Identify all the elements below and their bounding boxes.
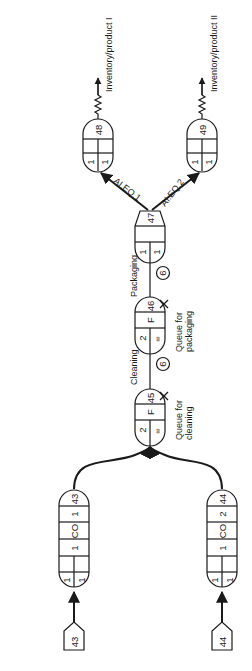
node-45-queue-limit: ∞ — [154, 429, 161, 434]
activity-cleaning-duration: 6 — [157, 361, 168, 366]
activity-cleaning-label: Cleaning — [129, 349, 139, 385]
node-48-number: 48 — [93, 125, 104, 136]
node-45-type: F — [145, 409, 156, 415]
node-43-cell-3: 1 — [69, 545, 80, 550]
node-44-bottom-left: 1 — [209, 577, 220, 582]
node-46: 46 F 2 ∞ — [135, 297, 168, 354]
node-48-bottom-right: 1 — [99, 159, 110, 164]
queue-45-label-line1: Queue for — [174, 400, 184, 440]
source-44-label: 44 — [217, 637, 228, 648]
node-43-cell-1: 1 — [69, 511, 80, 516]
node-43-number: 43 — [69, 494, 80, 505]
node-45-number: 45 — [145, 393, 156, 404]
node-44-cell-2: CO — [217, 524, 228, 538]
node-49-bottom-right: 1 — [203, 159, 214, 164]
queue-46-label-line2: packaging — [184, 311, 194, 352]
node-45: 45 F 2 ∞ — [135, 389, 168, 446]
node-46-type: F — [145, 317, 156, 323]
queue-45-label-line2: cleaning — [184, 406, 194, 440]
node-43-bottom-left: 1 — [61, 577, 72, 582]
node-47-bottom-right: 1 — [151, 249, 162, 254]
node-44-cell-3: 1 — [217, 545, 228, 550]
node-49-number: 49 — [197, 125, 208, 136]
branch-label-1: AI.EQ.1 — [112, 176, 143, 203]
source-43-label: 43 — [69, 637, 80, 648]
node-44: 44 2 CO 1 1 1 — [207, 490, 237, 587]
node-48-bottom-left: 1 — [85, 159, 96, 164]
node-46-capacity: 2 — [137, 335, 148, 340]
node-43-cell-2: CO — [69, 524, 80, 538]
node-43-bottom-right: 1 — [76, 577, 87, 582]
node-47-number: 47 — [145, 213, 156, 224]
node-48: 48 1 1 — [83, 119, 113, 172]
node-45-capacity: 2 — [137, 427, 148, 432]
sink-2-label: Inventory/product II — [209, 15, 219, 92]
source-node-43: 43 — [64, 622, 84, 650]
activity-packaging-duration: 6 — [157, 270, 168, 275]
node-47: 47 1 1 — [135, 211, 165, 263]
activity-packaging-label: Packaging — [129, 255, 139, 297]
branch-label-2: AI.EQ.2 — [159, 177, 186, 208]
node-44-bottom-right: 1 — [224, 577, 235, 582]
node-43: 43 1 CO 1 1 1 — [59, 490, 89, 587]
arrow-44-to-45 — [150, 447, 222, 489]
queue-46-label-line1: Queue for — [174, 312, 184, 352]
node-44-cell-1: 2 — [217, 511, 228, 516]
node-47-bottom-left: 1 — [137, 249, 148, 254]
node-46-queue-limit: ∞ — [154, 337, 161, 342]
node-49: 49 1 1 — [187, 119, 217, 172]
arrow-43-to-45 — [74, 447, 150, 489]
node-49-bottom-left: 1 — [189, 159, 200, 164]
node-44-number: 44 — [217, 494, 228, 505]
network-diagram: 43 43 1 CO 1 1 1 44 44 2 CO 1 1 1 — [0, 0, 252, 671]
sink-1-label: Inventory/product I — [104, 17, 114, 92]
node-46-number: 46 — [145, 301, 156, 312]
source-node-44: 44 — [212, 622, 232, 650]
